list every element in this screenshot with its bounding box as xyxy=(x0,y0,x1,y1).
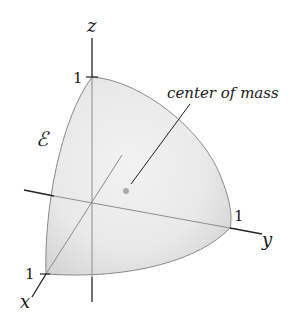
center-of-mass-dot xyxy=(123,188,129,194)
y-axis-left xyxy=(24,190,54,196)
z-tick-label: 1 xyxy=(73,69,83,87)
y-axis xyxy=(230,228,262,234)
center-of-mass-label: center of mass xyxy=(167,84,279,102)
solid-diagram: z 1 y 1 x 1 ℰ center of mass xyxy=(0,0,296,332)
y-tick-label: 1 xyxy=(234,207,244,225)
solid-region xyxy=(46,77,231,275)
z-axis-label: z xyxy=(86,15,97,36)
region-label: ℰ xyxy=(36,127,50,151)
x-tick-label: 1 xyxy=(25,265,35,283)
x-axis-label: x xyxy=(20,291,30,312)
y-axis-label: y xyxy=(261,229,273,250)
